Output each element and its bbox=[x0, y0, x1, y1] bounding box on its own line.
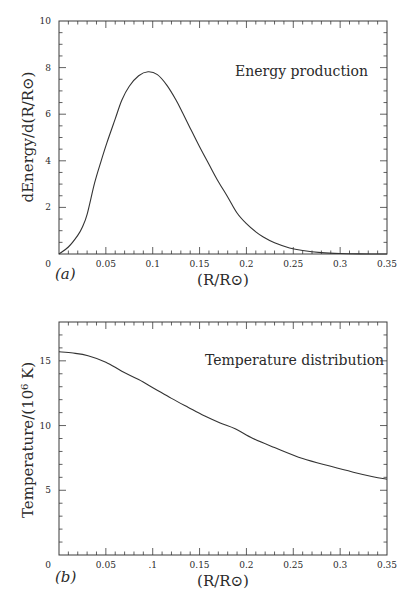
temperature-y-axis-label: Temperature/(10⁶ K) bbox=[19, 362, 37, 518]
y-tick-label: 8 bbox=[45, 63, 51, 73]
temperature-y-tick-labels: 051015 bbox=[40, 356, 52, 570]
x-tick-label: 0.2 bbox=[239, 560, 253, 570]
x-tick-label: 0.25 bbox=[283, 560, 303, 570]
x-tick-label: .1 bbox=[148, 560, 157, 570]
x-tick-label: 0.1 bbox=[146, 259, 160, 269]
y-tick-label: 5 bbox=[45, 485, 51, 495]
y-tick-label: 6 bbox=[45, 109, 51, 119]
y-tick-label: 10 bbox=[40, 421, 52, 431]
y-tick-label: 0 bbox=[45, 560, 51, 570]
y-tick-label: 4 bbox=[45, 156, 51, 166]
temperature-x-tick-labels: 0.05.10.150.20.250.30.35 bbox=[96, 560, 397, 570]
x-tick-label: 0.15 bbox=[190, 560, 210, 570]
energy-production-panel: 0.050.10.150.20.250.30.35 0246810 Energy… bbox=[19, 16, 397, 289]
temperature-annotation: Temperature distribution bbox=[205, 352, 384, 368]
x-tick-label: 0.15 bbox=[190, 259, 210, 269]
x-tick-label: 0.35 bbox=[377, 560, 397, 570]
y-tick-label: 10 bbox=[40, 16, 52, 26]
y-tick-label: 2 bbox=[45, 202, 51, 212]
figure: 0.050.10.150.20.250.30.35 0246810 Energy… bbox=[0, 0, 409, 609]
temperature-x-axis-label: (R/R⊙) bbox=[197, 572, 249, 590]
x-tick-label: 0.35 bbox=[377, 259, 397, 269]
temperature-panel: 0.05.10.150.20.250.30.35 051015 Temperat… bbox=[19, 322, 397, 590]
y-tick-label: 0 bbox=[45, 259, 51, 269]
x-tick-label: 0.3 bbox=[333, 560, 348, 570]
x-tick-label: 0.05 bbox=[96, 560, 116, 570]
energy-x-axis-label: (R/R⊙) bbox=[197, 271, 249, 289]
x-tick-label: 0.05 bbox=[96, 259, 116, 269]
energy-annotation: Energy production bbox=[235, 63, 368, 79]
temperature-distribution-curve bbox=[59, 352, 387, 480]
energy-y-tick-labels: 0246810 bbox=[40, 16, 52, 269]
y-tick-label: 15 bbox=[40, 356, 52, 366]
x-tick-label: 0.3 bbox=[333, 259, 348, 269]
energy-production-curve bbox=[59, 72, 387, 254]
x-tick-label: 0.25 bbox=[283, 259, 303, 269]
x-tick-label: 0.2 bbox=[239, 259, 253, 269]
energy-y-axis-label: dEnergy/d(R/R⊙) bbox=[19, 72, 37, 203]
panel-label-b: (b) bbox=[55, 568, 76, 586]
energy-x-tick-labels: 0.050.10.150.20.250.30.35 bbox=[96, 259, 397, 269]
panel-label-a: (a) bbox=[55, 265, 76, 283]
